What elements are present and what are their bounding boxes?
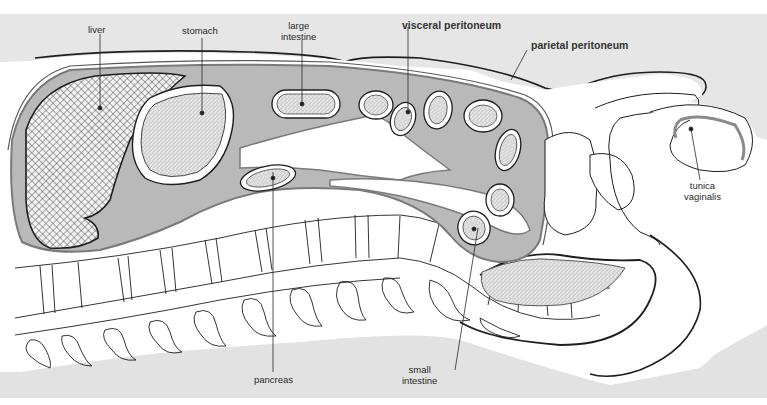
label-parietal-peritoneum: parietal peritoneum <box>531 40 628 51</box>
label-liver: liver <box>88 24 105 35</box>
peritoneum-diagram <box>0 0 767 405</box>
label-tunica-vaginalis-line2: vaginalis <box>684 191 721 202</box>
label-small-intestine: small intestine <box>402 364 437 386</box>
label-large-intestine-line1: large <box>281 20 316 31</box>
label-small-intestine-line1: small <box>402 364 437 375</box>
label-pancreas: pancreas <box>254 374 293 385</box>
label-large-intestine-line2: intestine <box>281 31 316 42</box>
label-tunica-vaginalis: tunica vaginalis <box>684 180 721 202</box>
label-stomach: stomach <box>182 25 218 36</box>
label-tunica-vaginalis-line1: tunica <box>684 180 721 191</box>
label-small-intestine-line2: intestine <box>402 375 437 386</box>
label-visceral-peritoneum: visceral peritoneum <box>402 20 501 31</box>
large-intestine <box>272 90 340 118</box>
label-large-intestine: large intestine <box>281 20 316 42</box>
